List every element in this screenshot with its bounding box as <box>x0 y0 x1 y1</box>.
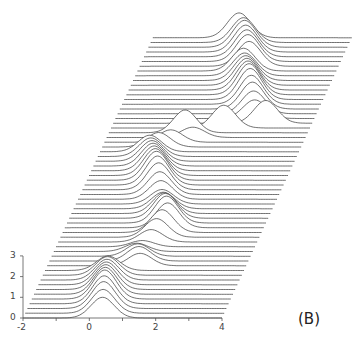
trace-fill <box>36 265 235 291</box>
x-tick-label: 4 <box>219 322 225 332</box>
y-tick-label: 0 <box>10 312 16 322</box>
x-tick-label: 2 <box>153 322 159 332</box>
y-tick-label: 1 <box>10 291 16 301</box>
y-tick-label: 3 <box>10 250 16 260</box>
trace-fill <box>91 146 290 172</box>
x-tick-label: 0 <box>86 322 92 332</box>
y-ticks <box>20 256 23 318</box>
trace-group <box>23 13 352 319</box>
trace-line <box>91 146 290 171</box>
waterfall-chart <box>0 0 364 344</box>
panel-label: (B) <box>298 310 320 328</box>
y-tick-label: 2 <box>10 271 16 281</box>
x-tick-label: -2 <box>17 322 26 332</box>
